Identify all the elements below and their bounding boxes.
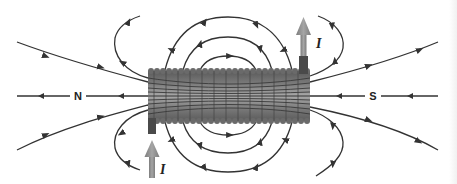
field-lines-left [17, 16, 148, 170]
current-label-top: I [315, 36, 322, 51]
solenoid-coil [148, 68, 310, 124]
field-loops-top [165, 17, 292, 70]
south-pole-label: S [369, 90, 376, 102]
solenoid-diagram: N S [0, 0, 457, 184]
solenoid-field-figure: N S [0, 0, 457, 184]
axis-left: N [17, 90, 148, 102]
axis-right: S [310, 90, 438, 102]
field-loops-bottom [165, 122, 292, 172]
north-pole-label: N [74, 90, 82, 102]
current-arrow-bottom: I [145, 140, 167, 178]
current-label-bottom: I [159, 162, 166, 177]
page-edge-shadow [449, 0, 457, 184]
lead-wire-top [299, 56, 308, 74]
current-arrow-top: I [296, 17, 322, 56]
lead-wire-bottom [148, 118, 156, 134]
